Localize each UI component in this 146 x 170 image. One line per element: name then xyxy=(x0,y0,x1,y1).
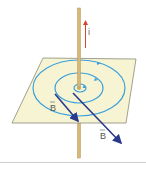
field-label-1: B xyxy=(50,103,56,113)
current-label: i xyxy=(88,27,90,37)
field-label-2: B xyxy=(100,131,106,141)
divider xyxy=(0,162,146,163)
wire-upper xyxy=(78,8,81,88)
plane xyxy=(12,58,136,123)
wire-crossing xyxy=(77,86,81,90)
wire-lower xyxy=(78,118,81,158)
magnetic-field-diagram: i B B xyxy=(0,0,146,170)
